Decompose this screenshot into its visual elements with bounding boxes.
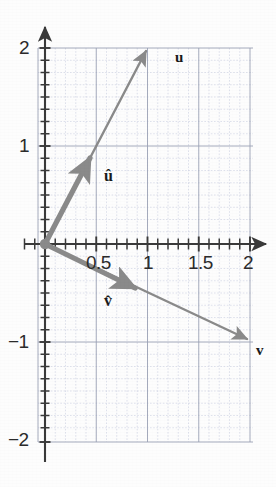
y-tick-label-neg2: −2 [8, 430, 29, 449]
vector-label-u-hat: û [104, 168, 113, 184]
x-tick-label-1: 1 [143, 253, 153, 272]
x-tick-label-1p5: 1.5 [188, 253, 213, 272]
y-tick-label-neg1: −1 [8, 332, 29, 351]
y-tick-label-2: 2 [19, 38, 29, 57]
vector-label-v: v [256, 343, 264, 358]
vector-label-u: u [175, 50, 183, 65]
vector-u-hat [45, 158, 90, 244]
x-tick-label-2: 2 [243, 253, 253, 272]
vector-plot-figure: 2 1 −1 −2 0.5 1 1.5 2 u û v̂ v [0, 0, 276, 487]
y-tick-label-1: 1 [19, 136, 29, 155]
x-tick-label-0p5: 0.5 [86, 253, 111, 272]
vector-label-v-hat: v̂ [104, 293, 112, 309]
origin-marker [40, 239, 50, 249]
plot-canvas [0, 0, 276, 487]
